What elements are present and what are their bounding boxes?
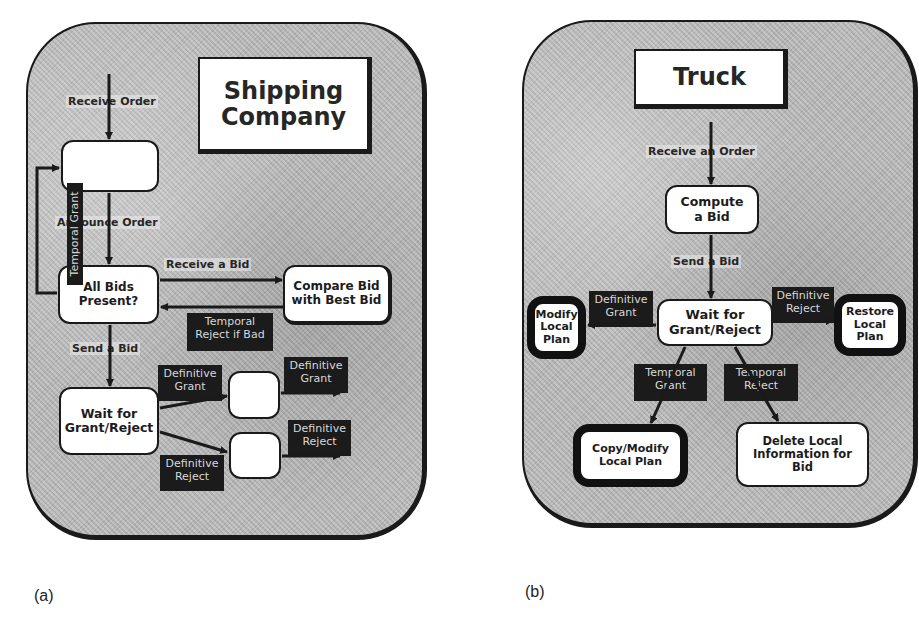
receive-bid-label: Receive a Bid <box>164 258 251 271</box>
definitive-grant-in-tag: Definitive Grant <box>158 365 222 401</box>
temporal-grant-tag: Temporal Grant <box>67 183 83 285</box>
shipping-company-title: Shipping Company <box>198 57 372 154</box>
modify-local-plan-node: Modify Local Plan <box>527 296 586 359</box>
temporal-reject-tag-b: Temporal Reject <box>724 364 798 401</box>
temporal-grant-tag-b: Temporal Grant <box>634 364 707 401</box>
temporal-reject-if-bad-tag: Temporal Reject if Bad <box>187 313 273 351</box>
grant-state-node <box>228 371 280 419</box>
wait-grant-reject-node-a: Wait for Grant/Reject <box>59 387 159 455</box>
definitive-grant-out-tag: Definitive Grant <box>284 357 348 393</box>
send-bid-label: Send a Bid <box>70 342 140 355</box>
restore-local-plan-node: Restore Local Plan <box>834 294 906 356</box>
definitive-reject-out-tag: Definitive Reject <box>288 420 351 456</box>
receive-an-order-label: Receive an Order <box>646 145 757 158</box>
definitive-grant-tag-b: Definitive Grant <box>589 291 653 327</box>
receive-order-label: Receive Order <box>66 95 158 108</box>
definitive-reject-tag-b: Definitive Reject <box>772 287 834 323</box>
compare-bid-node: Compare Bid with Best Bid <box>283 265 392 325</box>
truck-title: Truck <box>634 49 788 109</box>
caption-a: (a) <box>34 587 54 605</box>
reject-state-node <box>229 432 281 479</box>
delete-local-info-node: Delete Local Information for Bid <box>736 422 869 487</box>
compute-bid-node: Compute a Bid <box>665 185 759 234</box>
copy-modify-local-plan-node: Copy/Modify Local Plan <box>573 424 688 487</box>
wait-grant-reject-node-b: Wait for Grant/Reject <box>657 299 773 346</box>
caption-b: (b) <box>525 583 545 601</box>
send-a-bid-label: Send a Bid <box>671 255 741 268</box>
definitive-reject-in-tag: Definitive Reject <box>160 455 224 491</box>
